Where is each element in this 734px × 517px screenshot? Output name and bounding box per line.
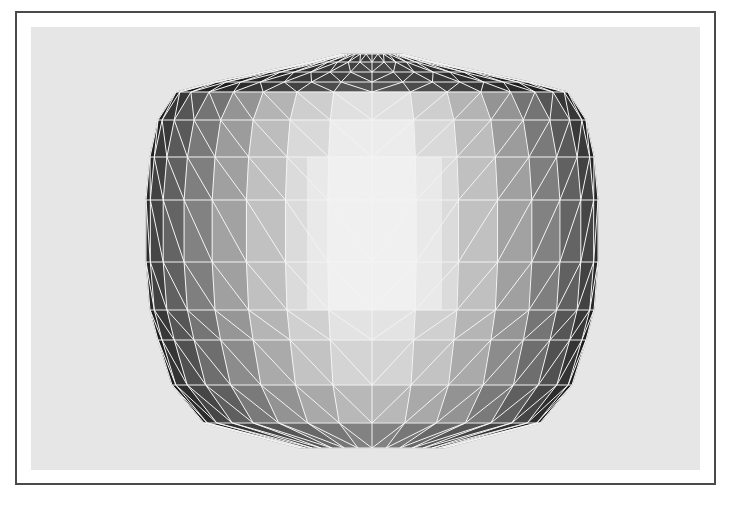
- mesh-face: [454, 120, 495, 157]
- mesh-face: [414, 120, 457, 157]
- mesh-face: [410, 92, 454, 120]
- mesh-edge: [311, 72, 312, 82]
- mesh-face: [287, 120, 330, 157]
- mesh-figure: [0, 0, 734, 517]
- specular-highlight: [307, 157, 442, 310]
- mesh-edge: [432, 72, 433, 82]
- mesh-edge: [383, 54, 384, 62]
- mesh-face: [249, 120, 290, 157]
- mesh-face: [290, 92, 334, 120]
